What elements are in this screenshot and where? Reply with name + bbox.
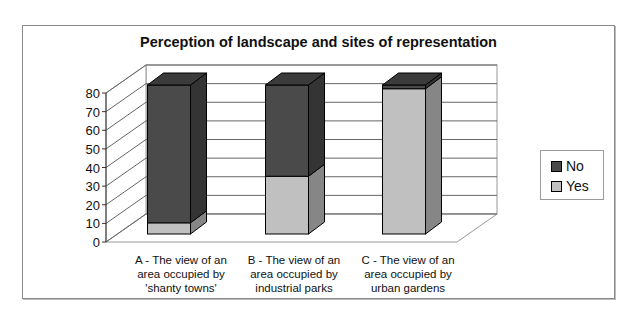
svg-text:80: 80 — [86, 86, 100, 101]
category-label-c: C - The view of anarea occupied byurban … — [352, 253, 464, 295]
svg-text:60: 60 — [86, 123, 100, 138]
svg-text:40: 40 — [86, 161, 100, 176]
svg-text:0: 0 — [93, 235, 100, 250]
svg-text:70: 70 — [86, 105, 100, 120]
legend-swatch-no — [551, 161, 562, 172]
legend-item-yes: Yes — [551, 178, 589, 194]
legend-item-no: No — [551, 158, 584, 174]
svg-text:20: 20 — [86, 198, 100, 213]
svg-text:50: 50 — [86, 142, 100, 157]
svg-text:10: 10 — [86, 216, 100, 231]
legend: No Yes — [540, 150, 604, 200]
legend-swatch-yes — [551, 181, 562, 192]
category-label-a: A - The view of anarea occupied by'shant… — [125, 253, 237, 295]
category-label-b: B - The view of anarea occupied byindust… — [238, 253, 350, 295]
svg-text:30: 30 — [86, 179, 100, 194]
